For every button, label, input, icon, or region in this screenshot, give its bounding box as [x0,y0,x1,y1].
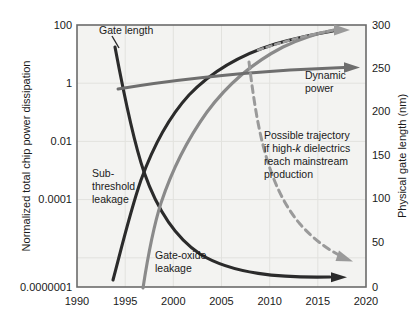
x-tick-2005: 2005 [209,295,233,307]
y2-tick-200: 200 [372,105,390,117]
power-dissipation-chart: 100 1 0.01 0.0001 0.0000001 300 250 200 … [0,0,416,316]
annotation-trajectory-line4: production [264,168,313,180]
y-tick-0.0000001: 0.0000001 [20,281,72,293]
y2-tick-250: 250 [372,62,390,74]
y2-tick-300: 300 [372,19,390,31]
y2-tick-150: 150 [372,149,390,161]
y-axis-title: Normalized total chip power dissipation [20,61,32,252]
annotation-trajectory-line2-pre: if high- [264,142,296,154]
annotation-trajectory-line3: reach mainstream [264,155,348,167]
x-tick-2020: 2020 [354,295,378,307]
y2-axis-title: Physical gate length (nm) [396,94,408,218]
x-tick-1995: 1995 [113,295,137,307]
y2-tick-50: 50 [372,236,384,248]
annotation-gate-oxide-line1: Gate-oxide [155,249,207,261]
y-tick-1: 1 [66,77,72,89]
y-tick-0.0001: 0.0001 [38,193,72,205]
annotation-gate-length: Gate length [99,24,153,36]
annotation-subthreshold-line3: leakage [92,193,129,205]
y2-tick-100: 100 [372,192,390,204]
annotation-dynamic-power-line1: Dynamic [305,69,346,81]
y-tick-0.01: 0.01 [51,135,72,147]
x-tick-2010: 2010 [257,295,281,307]
annotation-subthreshold-line2: threshold [92,180,135,192]
annotation-trajectory-line1: Possible trajectory [264,129,351,141]
annotation-trajectory-line2-post: dielectrics [301,142,351,154]
y2-tick-0: 0 [372,281,378,293]
annotation-dynamic-power-line2: power [305,82,334,94]
annotation-gate-oxide-line2: leakage [155,262,192,274]
annotation-subthreshold-line1: Sub- [92,167,115,179]
x-tick-1990: 1990 [65,295,89,307]
x-tick-2000: 2000 [161,295,185,307]
chart-figure: 100 1 0.01 0.0001 0.0000001 300 250 200 … [0,0,416,316]
annotation-trajectory-line2: if high-k dielectrics [264,142,350,154]
y-tick-100: 100 [54,19,72,31]
x-tick-2015: 2015 [306,295,330,307]
